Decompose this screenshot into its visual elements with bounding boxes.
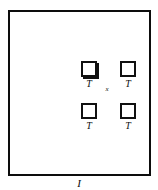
center-point-label: x xyxy=(101,86,113,93)
cell-square-bottom-right xyxy=(120,103,136,119)
cell-label-bottom-left: T xyxy=(81,121,97,131)
cell-label-top-left: T xyxy=(81,79,97,89)
figure-diagram: T T T T x I xyxy=(0,0,158,190)
outer-region-label: I xyxy=(0,177,158,189)
cell-square-top-left xyxy=(81,61,97,77)
cell-square-top-right xyxy=(120,61,136,77)
cell-square-bottom-left xyxy=(81,103,97,119)
cell-label-top-right: T xyxy=(120,79,136,89)
cell-label-bottom-right: T xyxy=(120,121,136,131)
outer-region-rectangle xyxy=(8,10,151,176)
